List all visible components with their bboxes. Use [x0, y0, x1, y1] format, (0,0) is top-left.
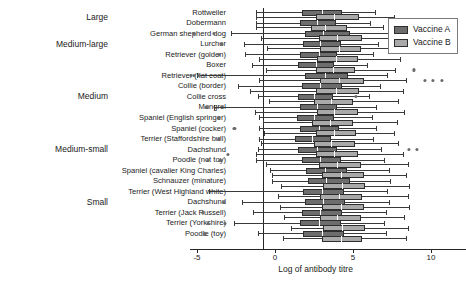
- boxplot-figure: LargeMedium-largeMediumMedium-smallSmall…: [0, 0, 466, 283]
- whisker-cap: [291, 226, 292, 231]
- legend-item-vaccine-a: Vaccine A: [394, 23, 451, 36]
- whisker-cap: [284, 215, 285, 220]
- legend: Vaccine A Vaccine B: [388, 18, 458, 54]
- whisker-cap: [280, 205, 281, 210]
- whisker-line: [209, 191, 387, 192]
- whisker-cap: [269, 99, 270, 104]
- boxplot-vaccine-b: [190, 236, 442, 242]
- outlier-point: [412, 68, 415, 71]
- whisker-cap: [403, 89, 404, 94]
- outlier-point: [423, 79, 426, 82]
- whisker-cap: [400, 57, 401, 62]
- x-axis-title: Log of antibody titre: [278, 264, 353, 274]
- whisker-cap: [263, 120, 264, 125]
- whisker-cap: [406, 173, 407, 178]
- x-axis-tick-label: 5: [351, 253, 355, 262]
- size-group-label: Medium-small: [55, 145, 108, 154]
- whisker-cap: [408, 194, 409, 199]
- outlier-point: [431, 79, 434, 82]
- size-group-label: Large: [86, 13, 108, 22]
- whisker-line: [197, 75, 387, 76]
- legend-label: Vaccine B: [413, 38, 451, 47]
- whisker-cap: [408, 226, 409, 231]
- whisker-cap: [272, 173, 273, 178]
- legend-swatch-icon: [394, 39, 408, 47]
- whisker-cap: [404, 215, 405, 220]
- whisker-cap: [266, 162, 267, 167]
- outlier-point: [227, 153, 230, 156]
- whisker-cap: [259, 78, 260, 83]
- legend-swatch-icon: [394, 26, 408, 34]
- x-axis-tick-label: 0: [273, 253, 277, 262]
- whisker-cap: [404, 110, 405, 115]
- size-group-label: Small: [87, 198, 108, 207]
- whisker-cap: [266, 68, 267, 73]
- whisker-cap: [395, 68, 396, 73]
- size-group-label-column: LargeMedium-largeMediumMedium-smallSmall: [0, 0, 108, 248]
- whisker-cap: [250, 89, 251, 94]
- whisker-cap: [409, 184, 410, 189]
- whisker-line: [214, 107, 376, 108]
- whisker-cap: [409, 205, 410, 210]
- whisker-cap: [281, 184, 282, 189]
- legend-item-vaccine-b: Vaccine B: [394, 36, 451, 49]
- whisker-cap: [408, 162, 409, 167]
- whisker-cap: [406, 236, 407, 241]
- whisker-cap: [267, 46, 268, 51]
- box: [322, 236, 363, 242]
- outlier-point: [440, 79, 443, 82]
- whisker-cap: [278, 194, 279, 199]
- size-group-label: Medium-large: [56, 40, 108, 49]
- x-axis-line: [190, 249, 466, 250]
- median-line: [341, 236, 342, 242]
- whisker-cap: [255, 110, 256, 115]
- whisker-cap: [398, 99, 399, 104]
- x-axis-tick-label: -5: [193, 253, 200, 262]
- whisker-cap: [406, 78, 407, 83]
- whisker-cap: [259, 57, 260, 62]
- whisker-cap: [283, 236, 284, 241]
- size-group-label: Medium: [78, 92, 108, 101]
- whisker-cap: [397, 120, 398, 125]
- legend-label: Vaccine A: [413, 25, 450, 34]
- x-axis-tick-label: 10: [427, 253, 436, 262]
